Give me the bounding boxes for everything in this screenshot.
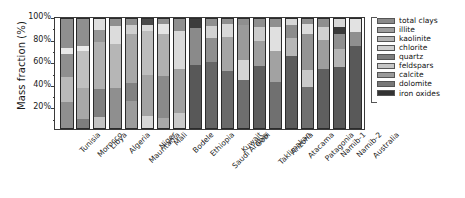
bar-segment (125, 25, 138, 34)
stacked-bar[interactable] (301, 18, 314, 129)
x-axis-tick-labels: TunisiaMoroccoLibyaAlgeriaMauritaniaNige… (54, 131, 365, 198)
stacked-bar[interactable] (333, 18, 346, 129)
chart-figure: Mass fraction (%) 20%40%60%80%100% Tunis… (0, 0, 465, 198)
y-tick-mark (51, 63, 55, 64)
bar-segment (109, 18, 122, 26)
bar-slot[interactable] (59, 18, 75, 129)
bar-segment (301, 34, 314, 71)
bar-slot[interactable] (107, 18, 123, 129)
stacked-bar[interactable] (349, 18, 362, 129)
bar-segment (301, 70, 314, 87)
bar-segment (269, 18, 282, 27)
y-tick-mark (53, 75, 55, 76)
stacked-bar[interactable] (285, 18, 298, 129)
bar-segment (205, 26, 218, 38)
stacked-bar[interactable] (76, 18, 89, 129)
stacked-bar[interactable] (157, 18, 170, 129)
bar-segment (333, 49, 346, 67)
stacked-bar[interactable] (141, 18, 154, 129)
legend-swatch-icon (377, 45, 395, 51)
bar-segment (253, 41, 266, 65)
bar-segment (349, 32, 362, 45)
bar-segment (285, 18, 298, 25)
legend-item[interactable]: illite (377, 25, 463, 34)
bar-slot[interactable] (268, 18, 284, 129)
legend-item[interactable]: feldspars (377, 61, 463, 70)
bar-slot[interactable] (284, 18, 300, 129)
bar-segment (237, 18, 250, 25)
bar-segment (125, 101, 138, 129)
stacked-bar[interactable] (109, 18, 122, 129)
bar-slot[interactable] (91, 18, 107, 129)
bar-slot[interactable] (219, 18, 235, 129)
bar-segment (221, 71, 234, 129)
bar-segment (76, 119, 89, 129)
bar-slot[interactable] (252, 18, 268, 129)
legend-label: kaolinite (399, 35, 431, 43)
stacked-bar[interactable] (205, 18, 218, 129)
bar-group (55, 18, 364, 129)
stacked-bar[interactable] (237, 18, 250, 129)
bar-segment (205, 38, 218, 62)
legend-swatch-icon (377, 27, 395, 33)
legend-label: illite (399, 26, 415, 34)
y-tick-mark (51, 41, 55, 42)
stacked-bar[interactable] (221, 18, 234, 129)
legend-swatch-icon (377, 36, 395, 42)
y-tick-label: 100% (17, 13, 51, 21)
bar-segment (285, 38, 298, 56)
bar-slot[interactable] (155, 18, 171, 129)
legend-label: quartz (399, 53, 423, 61)
bar-segment (141, 75, 154, 116)
bar-slot[interactable] (236, 18, 252, 129)
bar-segment (253, 18, 266, 27)
bar-segment (317, 69, 330, 129)
stacked-bar[interactable] (93, 18, 106, 129)
legend-item[interactable]: dolomite (377, 80, 463, 89)
bar-segment (333, 27, 346, 34)
stacked-bar[interactable] (317, 18, 330, 129)
bar-segment (141, 18, 154, 25)
bar-segment (221, 24, 234, 37)
bar-slot[interactable] (171, 18, 187, 129)
legend-item[interactable]: quartz (377, 52, 463, 61)
bar-segment (76, 51, 89, 88)
bar-segment (157, 76, 170, 118)
bar-segment (76, 18, 89, 46)
y-tick-mark (51, 108, 55, 109)
bar-segment (333, 67, 346, 129)
bar-segment (93, 89, 106, 117)
bar-segment (285, 25, 298, 38)
bar-slot[interactable] (187, 18, 203, 129)
y-tick-mark (53, 120, 55, 121)
bar-slot[interactable] (300, 18, 316, 129)
stacked-bar[interactable] (189, 18, 202, 129)
legend-item[interactable]: total clays (377, 16, 463, 25)
stacked-bar[interactable] (253, 18, 266, 129)
y-axis-tick-labels: 20%40%60%80%100% (17, 0, 51, 198)
stacked-bar[interactable] (269, 18, 282, 129)
legend-label: feldspars (399, 62, 433, 70)
bar-segment (157, 118, 170, 129)
legend-item[interactable]: iron oxides (377, 89, 463, 98)
bar-slot[interactable] (332, 18, 348, 129)
bar-segment (189, 65, 202, 129)
bar-segment (141, 31, 154, 74)
bar-slot[interactable] (75, 18, 91, 129)
stacked-bar[interactable] (60, 18, 73, 129)
legend-item[interactable]: chlorite (377, 43, 463, 52)
bar-segment (125, 83, 138, 101)
bar-slot[interactable] (316, 18, 332, 129)
bar-slot[interactable] (139, 18, 155, 129)
bar-segment (141, 116, 154, 129)
bar-slot[interactable] (348, 18, 364, 129)
stacked-bar[interactable] (173, 18, 186, 129)
legend-item[interactable]: calcite (377, 71, 463, 80)
legend-item[interactable]: kaolinite (377, 34, 463, 43)
bar-segment (237, 25, 250, 61)
bar-slot[interactable] (203, 18, 219, 129)
bar-segment (173, 18, 186, 31)
bar-slot[interactable] (123, 18, 139, 129)
bar-segment (93, 30, 106, 42)
stacked-bar[interactable] (125, 18, 138, 129)
